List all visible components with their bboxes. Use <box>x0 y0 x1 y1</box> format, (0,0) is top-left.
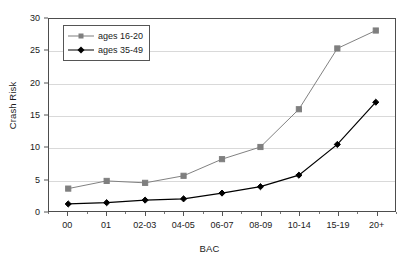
y-axis-title: Crash Risk <box>2 0 24 210</box>
x-axis-title: BAC <box>0 243 419 254</box>
x-tick-minor <box>125 212 126 214</box>
square-marker-icon <box>79 34 84 39</box>
data-point-diamond <box>219 190 225 196</box>
legend-item-ages-35-49: ages 35-49 <box>68 43 143 57</box>
x-tick-mark <box>261 212 262 216</box>
x-tick-mark <box>299 212 300 216</box>
data-point-diamond <box>142 197 148 203</box>
legend-label-ages-35-49: ages 35-49 <box>98 45 143 55</box>
x-tick-mark <box>67 212 68 216</box>
legend-swatch-diamond <box>68 44 94 56</box>
diamond-marker-icon <box>77 46 84 53</box>
x-tick-minor <box>280 212 281 214</box>
x-tick-label: 15-19 <box>326 220 349 230</box>
x-tick-mark <box>377 212 378 216</box>
legend-swatch-square <box>68 30 94 42</box>
data-point-square <box>296 107 301 112</box>
legend-item-ages-16-20: ages 16-20 <box>68 29 143 43</box>
x-tick-mark <box>338 212 339 216</box>
x-tick-label: 06-07 <box>210 220 233 230</box>
x-tick-minor <box>164 212 165 214</box>
data-point-diamond <box>180 196 186 202</box>
x-tick-mark <box>183 212 184 216</box>
x-tick-minor <box>241 212 242 214</box>
x-tick-minor <box>203 212 204 214</box>
legend-label-ages-16-20: ages 16-20 <box>98 31 143 41</box>
y-axis-title-text: Crash Risk <box>8 81 19 128</box>
data-point-square <box>143 180 148 185</box>
x-tick-label: 04-05 <box>172 220 195 230</box>
data-point-square <box>104 178 109 183</box>
data-point-square <box>373 28 378 33</box>
data-point-square <box>335 46 340 51</box>
data-point-square <box>181 173 186 178</box>
x-tick-minor <box>396 212 397 214</box>
data-point-diamond <box>65 201 71 207</box>
series-line <box>68 102 376 204</box>
x-tick-label: 01 <box>101 220 111 230</box>
x-tick-label: 02-03 <box>133 220 156 230</box>
x-axis-title-text: BAC <box>199 243 219 254</box>
x-tick-label: 08-09 <box>249 220 272 230</box>
data-point-square <box>258 144 263 149</box>
chart-figure: Crash Risk 051015202530000102-0304-0506-… <box>0 0 419 271</box>
x-tick-mark <box>106 212 107 216</box>
x-tick-label: 10-14 <box>288 220 311 230</box>
x-tick-minor <box>48 212 49 214</box>
x-tick-minor <box>319 212 320 214</box>
data-point-square <box>66 186 71 191</box>
x-tick-label: 20+ <box>369 220 384 230</box>
plot-area: ages 16-20 ages 35-49 <box>48 18 396 212</box>
x-tick-mark <box>145 212 146 216</box>
x-tick-minor <box>87 212 88 214</box>
x-tick-mark <box>222 212 223 216</box>
x-tick-label: 00 <box>62 220 72 230</box>
x-tick-minor <box>357 212 358 214</box>
data-point-diamond <box>257 184 263 190</box>
data-point-diamond <box>104 200 110 206</box>
data-point-square <box>219 157 224 162</box>
chart-legend: ages 16-20 ages 35-49 <box>63 25 150 61</box>
